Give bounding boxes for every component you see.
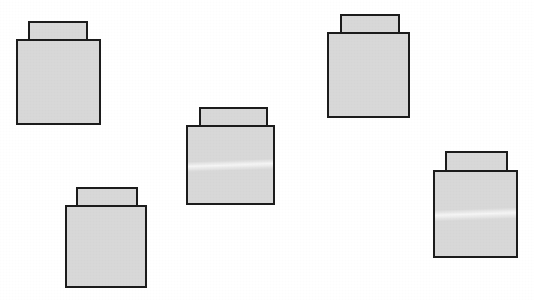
block-body [65,205,147,288]
block-body [327,32,410,118]
block-knob [340,14,400,34]
block-knob [445,151,508,172]
block-scene [0,0,534,300]
block-body [186,125,275,205]
block-knob [76,187,138,207]
block-body [433,170,518,258]
block-knob [199,107,268,127]
block-body [16,39,101,125]
block-knob [28,21,88,41]
